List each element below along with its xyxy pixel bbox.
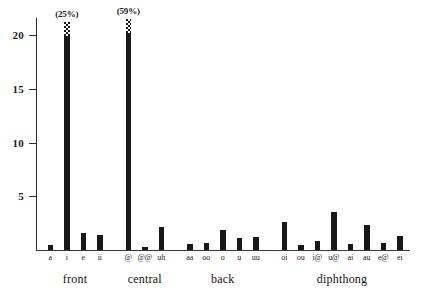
bar	[97, 235, 103, 250]
bar	[397, 236, 403, 250]
x-axis-category-label: o	[221, 253, 225, 262]
y-axis-tick-label: 15	[0, 83, 24, 95]
bar	[220, 230, 226, 250]
bar	[48, 245, 54, 250]
x-axis-category-label: u@	[328, 253, 339, 262]
bar	[364, 225, 370, 250]
bar	[204, 243, 210, 251]
bar: (59%)	[126, 19, 132, 250]
x-axis-category-label: e@	[378, 253, 389, 262]
x-axis-group-label: central	[128, 272, 162, 287]
x-axis-category-label: i	[66, 253, 68, 262]
x-axis-category-label: ou	[297, 253, 305, 262]
bar-truncation-cap	[64, 22, 70, 36]
x-axis-category-label: uh	[157, 253, 165, 262]
x-axis-category-label: ei	[397, 253, 403, 262]
bar-percent-annotation: (25%)	[55, 9, 78, 19]
x-axis-group-labels: frontcentralbackdiphthong	[36, 272, 412, 292]
x-axis-baseline	[36, 250, 410, 251]
x-axis-category-label: au	[363, 253, 370, 262]
bar-truncation-cap	[126, 19, 132, 33]
x-axis-category-label: uu	[252, 253, 260, 262]
x-axis-category-label: aa	[186, 253, 193, 262]
x-axis-category-label: @	[125, 253, 132, 262]
x-axis-category-label: u	[237, 253, 241, 262]
bar	[282, 222, 288, 250]
bar	[81, 233, 87, 250]
x-axis-category-label: ii	[98, 253, 102, 262]
x-axis-category-label: a	[49, 253, 52, 262]
x-axis-category-label: oo	[202, 253, 210, 262]
y-axis-tick-label: 5	[0, 190, 24, 202]
x-axis-category-label: @@	[137, 253, 152, 262]
bar	[159, 227, 165, 250]
vowel-frequency-bar-chart: 5101520 (25%)(59%) aieii@@@uhaaooouuuoio…	[0, 0, 422, 296]
bar-percent-annotation: (59%)	[117, 6, 140, 16]
y-axis-tick-label: 20	[0, 29, 24, 41]
x-axis-category-label: i@	[313, 253, 322, 262]
bar	[253, 237, 259, 250]
x-axis-category-label: ai	[347, 253, 353, 262]
bar-series: (25%)(59%)	[36, 14, 412, 250]
bar	[315, 241, 321, 250]
x-axis-group-label: back	[211, 272, 234, 287]
x-axis-group-label: diphthong	[317, 272, 367, 287]
bar: (25%)	[64, 22, 70, 250]
x-axis-group-label: front	[63, 272, 87, 287]
x-axis-category-label: oi	[281, 253, 287, 262]
bar	[348, 244, 354, 250]
bar	[237, 238, 243, 250]
x-axis-category-label: e	[82, 253, 85, 262]
bar	[381, 243, 387, 251]
y-axis-tick-label: 10	[0, 137, 24, 149]
bar	[298, 245, 304, 250]
x-axis-category-labels: aieii@@@uhaaooouuuoioui@u@aiaue@ei	[36, 253, 412, 267]
bar	[187, 244, 193, 250]
bar	[331, 212, 337, 250]
bar	[142, 247, 148, 250]
